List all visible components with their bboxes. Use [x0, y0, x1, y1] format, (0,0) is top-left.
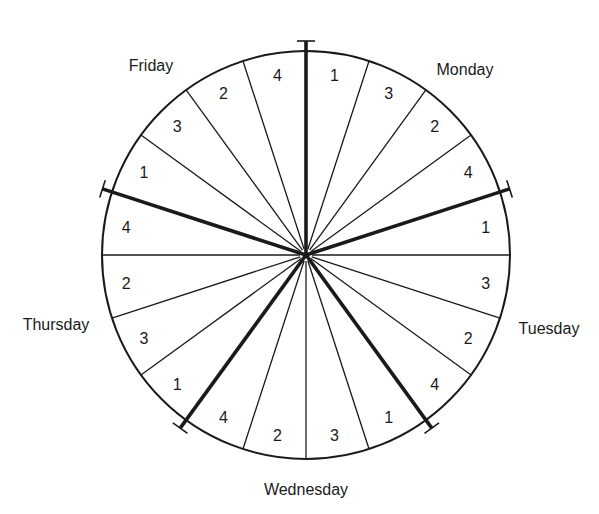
slot-number-thursday-4: 4 [122, 219, 131, 236]
day-label-wednesday: Wednesday [264, 481, 348, 498]
slot-number-thursday-2: 3 [139, 330, 148, 347]
day-label-thursday: Thursday [23, 316, 90, 333]
slot-divider-line [308, 61, 369, 249]
slot-number-friday-2: 3 [173, 118, 182, 135]
day-label-monday: Monday [437, 61, 494, 78]
slot-divider-line [112, 257, 300, 318]
slot-divider-line [141, 135, 301, 251]
slot-number-wednesday-4: 4 [219, 409, 228, 426]
slot-number-thursday-1: 1 [173, 376, 182, 393]
slot-divider-line [311, 259, 471, 375]
day-divider-endcap [425, 423, 440, 434]
slot-divider-line [243, 261, 304, 449]
slot-number-monday-4: 4 [464, 164, 473, 181]
slot-number-tuesday-3: 2 [464, 330, 473, 347]
day-divider-line [306, 189, 510, 255]
day-divider-line [306, 255, 432, 428]
slot-number-monday-1: 1 [330, 67, 339, 84]
slot-divider-line [312, 257, 500, 318]
day-divider-endcap [173, 423, 188, 434]
slot-divider-line [186, 90, 302, 250]
slot-number-monday-3: 2 [430, 118, 439, 135]
slot-number-wednesday-1: 1 [384, 409, 393, 426]
slot-number-tuesday-4: 4 [430, 376, 439, 393]
slot-number-monday-2: 3 [384, 85, 393, 102]
slot-number-tuesday-1: 1 [481, 219, 490, 236]
slot-number-tuesday-2: 3 [481, 275, 490, 292]
slot-number-wednesday-3: 2 [273, 427, 282, 444]
slot-divider-line [308, 261, 369, 449]
slot-number-wednesday-2: 3 [330, 427, 339, 444]
day-divider-line [102, 189, 306, 255]
day-label-tuesday: Tuesday [519, 320, 580, 337]
day-labels: MondayTuesdayWednesdayThursdayFriday [23, 57, 580, 498]
slot-divider-line [141, 259, 301, 375]
slot-divider-line [243, 61, 304, 249]
day-divider-line [180, 255, 306, 428]
slot-number-friday-3: 2 [219, 85, 228, 102]
schedule-wheel-diagram: 13241324132413241324 MondayTuesdayWednes… [0, 0, 599, 514]
slot-divider-line [310, 90, 426, 250]
slot-number-friday-4: 4 [273, 67, 282, 84]
slot-number-thursday-3: 2 [122, 275, 131, 292]
slot-number-friday-1: 1 [139, 164, 148, 181]
day-label-friday: Friday [129, 57, 173, 74]
slot-divider-line [311, 135, 471, 251]
